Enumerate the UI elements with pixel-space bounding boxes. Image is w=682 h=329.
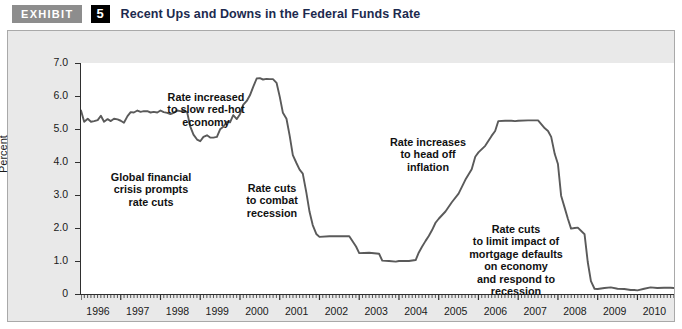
x-tick-label: 2006 (475, 305, 515, 317)
chart-frame: Percent 01.02.03.04.05.06.07.01996199719… (7, 30, 675, 322)
x-tick-label: 2010 (634, 305, 674, 317)
x-tick-label: 2003 (356, 305, 396, 317)
y-tick-mark (75, 96, 80, 97)
exhibit-title: Recent Ups and Downs in the Federal Fund… (121, 7, 421, 21)
y-axis-title: Percent (0, 135, 9, 173)
exhibit-badge-label: EXHIBIT (12, 5, 82, 23)
annotation-line: Rate cuts (246, 182, 298, 194)
annotation-line: on economy (469, 260, 563, 272)
x-tick-label: 1997 (118, 305, 158, 317)
y-tick-label: 5.0 (34, 122, 68, 134)
annotation-line: to limit impact of (469, 235, 563, 247)
x-axis-ticks (81, 294, 674, 300)
x-tick-label: 1998 (157, 305, 197, 317)
annotation-line: recession (469, 285, 563, 297)
annotation-line: recession (246, 207, 298, 219)
annotation-line: Rate cuts (469, 223, 563, 235)
y-tick-mark (75, 63, 80, 64)
y-tick-mark (75, 195, 80, 196)
annotation-line: inflation (390, 161, 466, 173)
exhibit-header: EXHIBIT 5 Recent Ups and Downs in the Fe… (0, 0, 682, 28)
annotation-rate-increased: Rate increasedto slow red-hoteconomy (167, 91, 244, 128)
y-tick-label: 0 (34, 287, 68, 299)
y-tick-label: 3.0 (34, 188, 68, 200)
x-tick-label: 2002 (316, 305, 356, 317)
x-tick-label: 1996 (78, 305, 118, 317)
annotation-line: Global financial (111, 171, 191, 183)
y-tick-mark (75, 261, 80, 262)
x-tick-label: 2000 (237, 305, 277, 317)
x-tick-label: 1999 (197, 305, 237, 317)
y-tick-label: 7.0 (34, 56, 68, 68)
annotation-line: and respond to (469, 273, 563, 285)
annotation-rate-cuts-mortgage: Rate cutsto limit impact ofmortgage defa… (469, 223, 563, 297)
x-tick-label: 2008 (555, 305, 595, 317)
annotation-line: to slow red-hot (167, 103, 244, 115)
annotation-global-financial-crisis: Global financialcrisis promptsrate cuts (111, 171, 191, 208)
y-tick-label: 4.0 (34, 155, 68, 167)
x-tick-label: 2009 (595, 305, 635, 317)
y-tick-mark (75, 129, 80, 130)
annotation-line: to head off (390, 148, 466, 160)
exhibit-number-badge: 5 (91, 5, 110, 23)
x-tick-label: 2007 (515, 305, 555, 317)
annotation-line: Rate increased (167, 91, 244, 103)
x-tick-label: 2001 (277, 305, 317, 317)
y-tick-label: 6.0 (34, 89, 68, 101)
y-tick-mark (75, 162, 80, 163)
annotation-line: rate cuts (111, 196, 191, 208)
annotation-line: crisis prompts (111, 183, 191, 195)
annotation-line: to combat (246, 194, 298, 206)
x-tick-label: 2005 (436, 305, 476, 317)
y-tick-mark (75, 294, 80, 295)
annotation-line: mortgage defaults (469, 248, 563, 260)
y-tick-mark (75, 228, 80, 229)
annotation-rate-cuts-recession: Rate cutsto combatrecession (246, 182, 298, 219)
exhibit-figure: EXHIBIT 5 Recent Ups and Downs in the Fe… (0, 0, 682, 329)
x-tick-label: 2004 (396, 305, 436, 317)
y-tick-label: 2.0 (34, 221, 68, 233)
y-tick-label: 1.0 (34, 254, 68, 266)
annotation-line: Rate increases (390, 136, 466, 148)
annotation-line: economy (167, 116, 244, 128)
annotation-rate-increases-inflation: Rate increasesto head offinflation (390, 136, 466, 173)
